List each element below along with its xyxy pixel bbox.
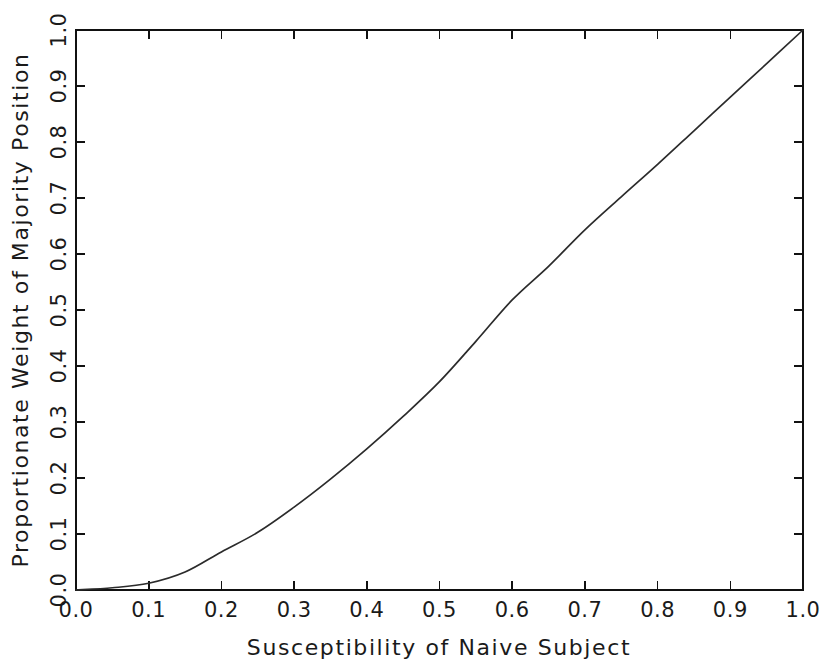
x-tick-label: 0.3	[277, 598, 312, 622]
y-tick-label: 0.2	[47, 461, 71, 496]
y-axis-title: Proportionate Weight of Majority Positio…	[8, 52, 33, 567]
x-axis-title: Susceptibility of Naive Subject	[247, 635, 631, 660]
x-tick-labels-group: 0.00.10.20.30.40.50.60.70.80.91.0	[59, 598, 821, 622]
y-tick-labels-group: 0.00.10.20.30.40.50.60.70.80.91.0	[47, 13, 71, 608]
x-tick-label: 0.9	[713, 598, 748, 622]
y-tick-label: 0.9	[47, 69, 71, 104]
x-tick-label: 0.6	[495, 598, 530, 622]
y-tick-label: 0.6	[47, 237, 71, 272]
line-chart-svg: 0.00.10.20.30.40.50.60.70.80.91.0 0.00.1…	[0, 0, 831, 668]
y-tick-label: 0.3	[47, 405, 71, 440]
y-tick-label: 0.4	[47, 349, 71, 384]
x-tick-label: 0.1	[131, 598, 166, 622]
plot-frame	[76, 30, 803, 590]
y-tick-label: 0.7	[47, 181, 71, 216]
y-tick-label: 0.5	[47, 293, 71, 328]
data-curve-proportionate-weight	[76, 30, 803, 590]
x-tick-label: 0.7	[567, 598, 602, 622]
tick-marks-group	[76, 30, 803, 590]
y-tick-label: 0.1	[47, 517, 71, 552]
x-tick-label: 1.0	[786, 598, 821, 622]
x-tick-label: 0.5	[422, 598, 457, 622]
y-tick-label: 1.0	[47, 13, 71, 48]
x-tick-label: 0.8	[640, 598, 675, 622]
x-tick-label: 0.2	[204, 598, 239, 622]
x-tick-label: 0.4	[349, 598, 384, 622]
chart-figure: 0.00.10.20.30.40.50.60.70.80.91.0 0.00.1…	[0, 0, 831, 668]
y-tick-label: 0.0	[47, 573, 71, 608]
y-tick-label: 0.8	[47, 125, 71, 160]
